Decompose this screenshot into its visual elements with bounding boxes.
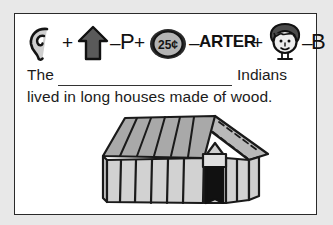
rebus-letter-b: B (311, 29, 326, 55)
rebus-puzzle-row: + – P + 25¢ – ARTER + (15, 20, 318, 68)
rebus-word-arter: ARTER (199, 32, 256, 52)
boy-face-icon (265, 21, 305, 65)
rebus-plus-1: + (62, 32, 73, 54)
rebus-minus-1: – (110, 32, 121, 54)
rebus-letter-p: P (120, 29, 135, 55)
answer-blank-input[interactable] (58, 85, 232, 86)
rebus-minus-2: – (189, 32, 200, 54)
up-arrow-icon (77, 25, 109, 63)
rebus-plus-2: + (134, 32, 145, 54)
svg-text:25¢: 25¢ (158, 38, 178, 52)
quarter-coin-icon: 25¢ (148, 26, 188, 62)
rebus-plus-3: + (252, 32, 263, 54)
sentence-prefix: The (27, 66, 54, 83)
worksheet-card: + – P + 25¢ – ARTER + (14, 13, 317, 215)
ear-icon (27, 26, 57, 62)
sentence-suffix: Indians (237, 66, 287, 84)
sentence-line-two: lived in long houses made of wood. (27, 88, 309, 106)
longhouse-illustration (63, 110, 273, 208)
